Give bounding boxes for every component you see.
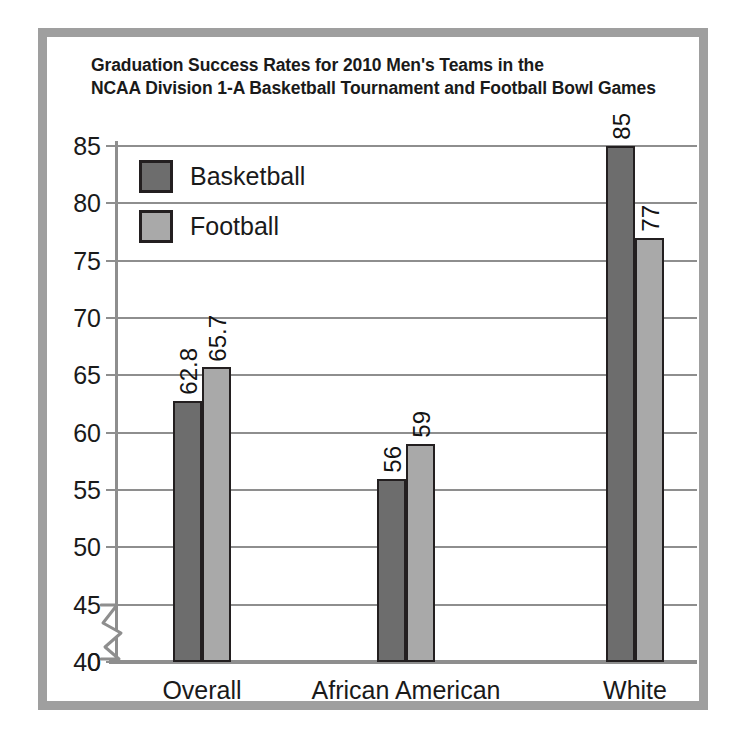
legend-label-football: Football bbox=[190, 212, 279, 241]
chart-legend: BasketballFootball bbox=[139, 151, 305, 251]
bar-football-white bbox=[635, 238, 664, 662]
y-axis-tick-label: 65 bbox=[73, 361, 101, 390]
y-axis-tick bbox=[106, 374, 117, 376]
y-axis-tick bbox=[106, 432, 117, 434]
bar-value-label: 85 bbox=[608, 113, 636, 140]
bar-football-overall bbox=[202, 367, 231, 662]
y-axis-tick bbox=[106, 145, 117, 147]
chart-frame: Graduation Success Rates for 2010 Men's … bbox=[38, 28, 708, 710]
category-label-african-american: African American bbox=[312, 676, 501, 705]
bar-value-label: 59 bbox=[408, 411, 436, 438]
y-axis-tick-label: 70 bbox=[73, 304, 101, 333]
chart-title: Graduation Success Rates for 2010 Men's … bbox=[91, 54, 691, 100]
bar-value-label: 65.7 bbox=[204, 315, 232, 362]
y-axis-tick-label: 75 bbox=[73, 246, 101, 275]
y-axis-tick-label: 85 bbox=[73, 132, 101, 161]
y-axis-line bbox=[115, 141, 118, 662]
bar-basketball-african-american bbox=[377, 479, 406, 662]
legend-item-football: Football bbox=[139, 201, 305, 251]
bar-value-label: 62.8 bbox=[175, 348, 203, 395]
chart-canvas: Graduation Success Rates for 2010 Men's … bbox=[47, 37, 699, 701]
y-axis-tick-label: 60 bbox=[73, 418, 101, 447]
bar-basketball-overall bbox=[173, 401, 202, 662]
y-axis-tick-label: 80 bbox=[73, 189, 101, 218]
y-axis-tick-label: 50 bbox=[73, 533, 101, 562]
y-axis-tick bbox=[106, 202, 117, 204]
category-label-overall: Overall bbox=[162, 676, 241, 705]
legend-item-basketball: Basketball bbox=[139, 151, 305, 201]
y-axis-tick bbox=[106, 546, 117, 548]
bar-basketball-white bbox=[606, 146, 635, 662]
bar-value-label: 77 bbox=[637, 205, 665, 232]
category-label-white: White bbox=[603, 676, 667, 705]
y-axis-tick bbox=[106, 317, 117, 319]
bar-value-label: 56 bbox=[379, 446, 407, 473]
axis-break-icon bbox=[95, 603, 135, 661]
bar-football-african-american bbox=[406, 444, 435, 662]
y-axis-tick bbox=[106, 489, 117, 491]
legend-swatch-basketball bbox=[139, 160, 173, 193]
legend-label-basketball: Basketball bbox=[190, 162, 305, 191]
y-axis-tick bbox=[106, 260, 117, 262]
y-axis-tick-label: 55 bbox=[73, 476, 101, 505]
plot-area: 404550556065707580850 62.865.756598577 O… bbox=[117, 141, 697, 662]
legend-swatch-football bbox=[139, 210, 173, 243]
